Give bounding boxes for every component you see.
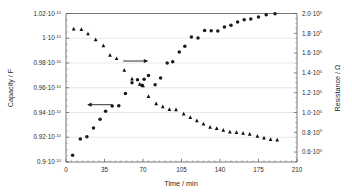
data-point-triangle <box>154 102 158 106</box>
y-axis-left-ticks <box>66 14 69 163</box>
data-point-triangle <box>102 44 106 48</box>
data-point-triangle <box>80 27 84 31</box>
data-point-triangle <box>161 105 165 109</box>
y-right-tick-label: 1.6·105 <box>302 49 323 56</box>
data-point-triangle <box>108 53 112 57</box>
data-point-triangle <box>208 125 212 129</box>
data-point-circle <box>104 110 108 114</box>
y-axis-left-tick-labels: 0.9·10-100.92·10-100.94·10-100.96·10-100… <box>33 10 61 166</box>
series-resistance <box>72 27 279 142</box>
arrow-head <box>87 103 91 107</box>
data-point-triangle <box>174 108 178 112</box>
data-point-triangle <box>241 131 245 135</box>
y-right-tick-label: 1.2·105 <box>302 89 323 96</box>
y-right-tick-label: 0.8·105 <box>302 128 323 135</box>
data-point-circle <box>257 15 261 19</box>
data-point-triangle <box>188 115 192 119</box>
y-left-tick-label: 1·10-10 <box>42 34 61 41</box>
resistance-arrow <box>123 59 148 63</box>
x-axis-tick-labels: 03570105140175210 <box>64 166 303 173</box>
x-axis-ticks <box>66 159 297 162</box>
data-point-circle <box>85 135 89 139</box>
data-point-triangle <box>168 107 172 111</box>
data-point-triangle <box>248 132 252 136</box>
y-axis-right-title: Resistance / Ω <box>333 64 342 112</box>
data-point-triangle <box>86 32 90 36</box>
data-point-triangle <box>228 130 232 134</box>
data-point-circle <box>130 81 134 85</box>
y-left-tick-label: 0.9·10-10 <box>37 158 62 165</box>
data-point-triangle <box>256 134 260 138</box>
x-tick-label: 105 <box>176 166 187 173</box>
axis-pointer-arrows <box>87 59 148 107</box>
chart-figure: 03570105140175210 0.9·10-100.92·10-100.9… <box>0 0 352 192</box>
data-point-triangle <box>122 68 126 72</box>
data-point-circle <box>229 24 233 28</box>
capacity-arrow <box>87 103 112 107</box>
data-point-circle <box>117 104 121 108</box>
data-point-circle <box>223 25 227 29</box>
data-point-circle <box>203 29 207 33</box>
y-right-tick-label: 2.0·105 <box>302 10 323 17</box>
arrow-head <box>144 59 148 63</box>
data-point-circle <box>242 18 246 22</box>
y-left-tick-label: 1.02·10-10 <box>33 10 61 17</box>
data-series <box>71 12 279 157</box>
data-point-circle <box>209 29 213 33</box>
y-left-tick-label: 0.94·10-10 <box>33 109 61 116</box>
data-point-circle <box>124 92 128 96</box>
data-point-triangle <box>235 130 239 134</box>
data-point-circle <box>171 60 175 64</box>
data-point-triangle <box>262 136 266 140</box>
data-point-circle <box>216 29 220 33</box>
y-left-tick-label: 0.96·10-10 <box>33 84 61 91</box>
y-right-tick-label: 1.0·105 <box>302 109 323 116</box>
y-right-tick-label: 1.8·105 <box>302 29 323 36</box>
data-point-circle <box>196 36 200 40</box>
y-right-tick-label: 1.4·105 <box>302 69 323 76</box>
x-tick-label: 140 <box>215 166 226 173</box>
data-point-circle <box>98 118 102 122</box>
dual-axis-scatter-plot: 03570105140175210 0.9·10-100.92·10-100.9… <box>0 0 352 192</box>
y-left-tick-label: 0.92·10-10 <box>33 133 61 140</box>
y-axis-right-tick-labels: 0.6·1050.8·1051.0·1051.2·1051.4·1051.6·1… <box>302 10 323 156</box>
data-point-circle <box>183 45 187 49</box>
y-left-tick-label: 0.98·10-10 <box>33 59 61 66</box>
data-point-triangle <box>221 128 225 132</box>
y-axis-left-title: Capacity / F <box>6 68 15 107</box>
data-point-circle <box>79 137 83 141</box>
data-point-circle <box>159 76 163 80</box>
data-point-circle <box>165 61 169 65</box>
data-point-circle <box>273 12 277 16</box>
data-point-circle <box>147 74 151 78</box>
data-point-circle <box>142 78 146 82</box>
data-point-triangle <box>72 27 76 31</box>
data-point-circle <box>178 50 182 54</box>
data-point-triangle <box>202 122 206 126</box>
data-point-circle <box>71 153 75 157</box>
y-right-tick-label: 0.6·105 <box>302 148 323 155</box>
data-point-circle <box>249 17 253 21</box>
data-point-circle <box>264 13 268 16</box>
data-point-circle <box>190 35 194 39</box>
data-point-circle <box>92 126 96 130</box>
gridlines <box>66 38 297 137</box>
data-point-circle <box>236 20 240 24</box>
data-point-triangle <box>147 94 151 98</box>
x-axis-title: Time / min <box>164 179 197 188</box>
x-tick-label: 175 <box>253 166 264 173</box>
data-point-circle <box>153 83 157 87</box>
data-point-triangle <box>215 126 219 130</box>
data-point-triangle <box>269 137 273 141</box>
data-point-triangle <box>115 56 119 60</box>
data-point-triangle <box>275 138 279 142</box>
data-point-triangle <box>130 77 134 81</box>
data-point-circle <box>136 78 140 82</box>
x-tick-label: 210 <box>292 166 303 173</box>
x-tick-label: 70 <box>139 166 147 173</box>
series-capacity <box>71 12 277 157</box>
x-tick-label: 0 <box>64 166 68 173</box>
data-point-triangle <box>195 118 199 122</box>
x-tick-label: 35 <box>101 166 109 173</box>
